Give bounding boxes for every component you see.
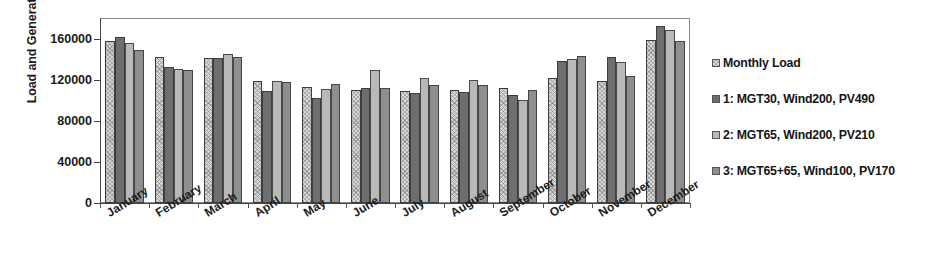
bar-groups [100,18,690,203]
bar-group [395,18,444,203]
bar-group [149,18,198,203]
bar [380,88,390,203]
bar [115,37,125,204]
legend-swatch-icon [712,167,720,175]
legend-swatch-icon [712,95,720,103]
bar-group [100,18,149,203]
bar [331,84,341,203]
bar-group [493,18,542,203]
y-axis-tick-labels: 04000080000120000160000 [30,0,92,271]
x-axis-tick-mark [100,203,101,208]
bar [469,80,479,203]
x-axis-tick-mark [493,203,494,208]
bar [459,92,469,203]
x-axis-tick-mark [297,203,298,208]
x-axis-tick-mark [592,203,593,208]
y-axis-tick-label: 40000 [30,155,92,169]
bar [213,58,223,203]
bar-group [198,18,247,203]
bar [616,62,626,203]
x-axis-tick-mark [149,203,150,208]
bar-group [641,18,690,203]
y-axis-tick-label: 0 [30,196,92,210]
bar [429,85,439,203]
bar [233,57,243,203]
bar [656,26,666,203]
bar [557,61,567,203]
bar [125,43,135,203]
bar [134,50,144,203]
bar [675,41,685,203]
bar [597,81,607,203]
bar [282,82,292,203]
x-axis-tick-mark [198,203,199,208]
y-axis-tick-label: 160000 [30,32,92,46]
bar [164,67,174,203]
x-axis-tick-mark [444,203,445,208]
x-axis-tick-mark [543,203,544,208]
y-axis-tick-label: 80000 [30,114,92,128]
legend-label: Monthly Load [723,56,801,70]
bar [262,91,272,203]
bar [105,41,115,203]
bar [253,81,263,203]
bar [665,30,675,203]
bar [370,70,380,203]
legend-swatch-icon [712,131,720,139]
x-axis-tick-mark [395,203,396,208]
y-axis-tick-label: 120000 [30,73,92,87]
legend-swatch-icon [712,59,720,67]
legend-item[interactable]: 2: MGT65, Wind200, PV210 [712,128,927,142]
bar [567,59,577,203]
bar [321,89,331,203]
bar [204,58,214,203]
bar-group [297,18,346,203]
legend-label: 3: MGT65+65, Wind100, PV170 [723,164,895,178]
bar-group [346,18,395,203]
legend-item[interactable]: 3: MGT65+65, Wind100, PV170 [712,164,927,178]
bar [518,100,528,203]
bar-group [444,18,493,203]
bar [450,90,460,203]
bar [400,91,410,203]
bar [174,69,184,203]
legend-item[interactable]: Monthly Load [712,56,927,70]
x-axis-tick-mark [641,203,642,208]
legend-label: 2: MGT65, Wind200, PV210 [723,128,875,142]
bar [351,90,361,203]
bar-group [592,18,641,203]
x-axis-tick-mark [690,203,691,208]
legend-item[interactable]: 1: MGT30, Wind200, PV490 [712,92,927,106]
bar [499,88,509,203]
bar [312,98,322,203]
bar-chart: Load and Generation (kWh) 04000080000120… [0,0,933,271]
bar [508,95,518,203]
legend-label: 1: MGT30, Wind200, PV490 [723,92,875,106]
bar [302,87,312,203]
x-axis-tick-mark [346,203,347,208]
bar [223,54,233,203]
bar-group [248,18,297,203]
x-axis-tick-mark [248,203,249,208]
bar [361,88,371,203]
bar [410,93,420,203]
bar [607,57,617,203]
bar [420,78,430,203]
bar [577,56,587,203]
bar [272,81,282,203]
chart-legend: Monthly Load1: MGT30, Wind200, PV4902: M… [712,56,927,200]
bar [155,57,165,203]
